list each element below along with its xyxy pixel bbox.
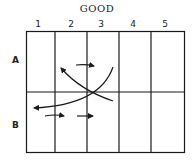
curved-arrow-down-left-icon bbox=[34, 67, 113, 108]
grid-lines bbox=[26, 31, 185, 153]
arrow-right-icon-a bbox=[76, 65, 94, 66]
grid-diagram bbox=[0, 0, 194, 160]
